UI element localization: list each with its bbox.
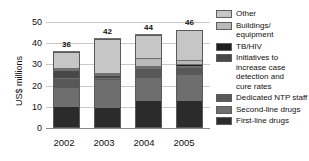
legend-label-initiatives-line4: cure rates xyxy=(236,82,272,91)
legend-label-dedicated-ntp-staff: Dedicated NTP staff xyxy=(236,93,307,103)
bar-2003[interactable] xyxy=(94,38,121,128)
bar-segment xyxy=(94,80,121,108)
legend-label-initiatives-line2: increase case xyxy=(236,63,285,72)
bar-segment xyxy=(176,75,203,100)
y-axis-title: US$ millions xyxy=(14,56,24,106)
legend-item-other[interactable]: Other xyxy=(216,9,309,19)
legend-item-dedicated-ntp-staff[interactable]: Dedicated NTP staff xyxy=(216,93,309,103)
legend-swatch-initiatives xyxy=(216,54,232,62)
x-tick-2004: 2004 xyxy=(124,138,164,148)
plot-area: 36424446 xyxy=(46,22,210,128)
legend-item-tb-hiv[interactable]: TB/HIV xyxy=(216,42,309,52)
bar-segment xyxy=(135,100,162,128)
legend-label-initiatives-line3: detection and xyxy=(236,72,284,81)
gridline-0 xyxy=(46,128,210,129)
bar-segment xyxy=(176,67,203,75)
legend-swatch-second-line-drugs xyxy=(216,106,232,114)
bar-segment xyxy=(135,34,162,57)
bar-segment xyxy=(176,30,203,60)
legend-swatch-dedicated-ntp-staff xyxy=(216,94,232,102)
bar-segment xyxy=(176,100,203,128)
legend-label-initiatives-line1: Initiatives to xyxy=(236,53,278,62)
legend-item-second-line-drugs[interactable]: Second-line drugs xyxy=(216,105,309,115)
legend-label-buildings-line1: Buildings/ xyxy=(236,21,271,30)
legend-swatch-tb-hiv xyxy=(216,43,232,51)
bar-segment xyxy=(94,107,121,128)
x-tick-2003: 2003 xyxy=(84,138,124,148)
bar-segment xyxy=(135,78,162,100)
bar-segment xyxy=(53,70,80,78)
bar-segment xyxy=(53,106,80,128)
bar-segment xyxy=(135,58,162,66)
bar-total-label-2002: 36 xyxy=(53,41,80,49)
bar-segment xyxy=(135,68,162,78)
bar-total-label-2004: 44 xyxy=(135,24,162,32)
legend-item-buildings-equipment[interactable]: Buildings/ equipment xyxy=(216,21,309,40)
chart-figure: US$ millions 50 40 30 20 10 0 36424446 2… xyxy=(0,0,309,161)
y-tick-40: 40 xyxy=(20,39,42,48)
y-tick-50: 50 xyxy=(20,18,42,27)
legend: Other Buildings/ equipment TB/HIV Initia… xyxy=(216,9,309,128)
legend-item-first-line-drugs[interactable]: First-line drugs xyxy=(216,116,309,126)
x-tick-2005: 2005 xyxy=(164,138,204,148)
legend-label-tb-hiv: TB/HIV xyxy=(236,42,262,52)
legend-label-other: Other xyxy=(236,9,256,19)
legend-item-initiatives[interactable]: Initiatives to increase case detection a… xyxy=(216,53,309,91)
bar-2005[interactable] xyxy=(176,30,203,128)
legend-swatch-first-line-drugs xyxy=(216,117,232,125)
bar-segment xyxy=(94,38,121,73)
legend-label-first-line-drugs: First-line drugs xyxy=(236,116,289,126)
bar-total-label-2005: 46 xyxy=(176,19,203,27)
bar-total-label-2003: 42 xyxy=(94,28,121,36)
legend-swatch-buildings-equipment xyxy=(216,22,232,30)
bar-2002[interactable] xyxy=(53,51,80,128)
bar-segment xyxy=(53,88,80,106)
bar-segment xyxy=(53,78,80,88)
x-tick-2002: 2002 xyxy=(44,138,84,148)
y-tick-0: 0 xyxy=(20,124,42,133)
legend-swatch-other xyxy=(216,10,232,18)
bar-segment xyxy=(53,51,80,68)
legend-label-buildings-line2: equipment xyxy=(236,30,273,39)
legend-label-second-line-drugs: Second-line drugs xyxy=(236,105,300,115)
bar-2004[interactable] xyxy=(135,34,162,128)
